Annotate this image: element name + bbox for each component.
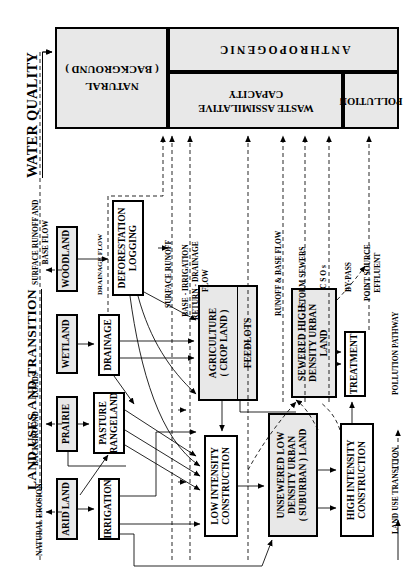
node-woodland-label: WOODLAND (61, 230, 72, 288)
node-feedlots-label: FEEDLOTS (243, 318, 254, 369)
node-deforestation-logging[interactable]: DEFORESTATION LOGGING (112, 200, 144, 296)
label-srbf-line2: BASE FLOW (41, 200, 51, 285)
heading-water-quality: WATER QUALITY (24, 52, 43, 178)
wq-waste-line1: WASTE ASSIMILATIVE (198, 101, 314, 115)
node-sewered-line3: LAND (320, 330, 330, 357)
node-pasture-rangeland[interactable]: PASTURE RANGELAND (93, 392, 125, 454)
node-pasture-line1: PASTURE (98, 401, 108, 445)
label-background: BACKGROUND (31, 411, 40, 466)
node-high-intensity-label: HIGH INTENSITY CONSTRUCTION (346, 440, 368, 521)
legend-land-use-transition-label: LAND USE TRANSITION (392, 447, 401, 534)
node-irrigation[interactable]: IRRIGATION (98, 478, 120, 540)
label-base-irrigation-return-drainage-flow: BASE - IRRIGATION RETURN - DRAINAGE FLOW (181, 241, 211, 320)
node-unsewered-line2: DENSITY URBAN (287, 436, 297, 514)
label-loads: LOADS (31, 372, 40, 398)
node-irrigation-label: IRRIGATION (103, 480, 114, 539)
node-unsewered-line1: UNSEWERED LOW (276, 432, 286, 519)
label-birdf-line2: RETURN - DRAINAGE (191, 241, 201, 320)
node-prairie-label: PRAIRIE (61, 404, 72, 444)
label-surface-runoff-and-base-flow: SURFACE RUNOFF AND BASE FLOW (31, 200, 51, 285)
wq-natural-line2: ( BACKGROUND ) (65, 61, 159, 78)
label-background-loads: BACKGROUND LOADS (32, 372, 41, 466)
label-birdf-line3: FLOW (201, 241, 211, 320)
label-drainage-flow: DRAINAGE FLOW (96, 234, 104, 295)
node-treatment[interactable]: TREATMENT (344, 331, 366, 397)
label-by-pass: BY-PASS (345, 262, 354, 292)
node-wetland[interactable]: WETLAND (56, 314, 78, 374)
label-point-source-effluent: POINT SOURCE EFFLUENT (363, 244, 383, 301)
node-deforestation-line1: DEFORESTATION (117, 208, 127, 289)
node-high-intensity-construction[interactable]: HIGH INTENSITY CONSTRUCTION (340, 423, 374, 537)
node-woodland[interactable]: WOODLAND (56, 226, 78, 292)
node-drainage-label: DRAINAGE (103, 319, 114, 371)
node-sewered-line1: SEWERED HIGH (297, 305, 307, 381)
label-csos: C S O s (320, 265, 329, 289)
label-surface-runoff: SURFACE RUNOFF (165, 240, 174, 308)
node-pasture-rangeland-label: PASTURE RANGELAND (98, 392, 120, 453)
water-quality-waste-capacity-cell: WASTE ASSIMILATIVE CAPACITY (168, 72, 343, 129)
node-high-intensity-line1: HIGH INTENSITY (346, 440, 356, 521)
wq-natural-line1: NATURAL (65, 78, 159, 95)
node-unsewered-low-density-urban-suburban-land[interactable]: UNSEWERED LOW DENSITY URBAN ( SUBURBAN )… (268, 413, 318, 537)
label-runoff-and-base-flow: RUNOFF & BASE FLOW (275, 231, 284, 316)
node-low-intensity-construction[interactable]: LOW INTENSITY CONSTRUCTION (204, 435, 238, 537)
figure-canvas: WATER QUALITY LAND USES AND TRANSITION N… (0, 0, 410, 574)
node-drainage[interactable]: DRAINAGE (98, 314, 120, 376)
water-quality-anthropogenic-cell: ANTHROPOGENIC (168, 27, 399, 72)
node-low-intensity-label: LOW INTENSITY CONSTRUCTION (210, 447, 232, 525)
node-low-intensity-line2: CONSTRUCTION (221, 447, 231, 525)
wq-pollution-label: POLLUTION (339, 95, 402, 106)
legend-pollution-pathway-label: POLLUTION PATHWAY (392, 312, 401, 395)
label-effluent: EFFLUENT (373, 244, 383, 301)
wq-anthropogenic-label: ANTHROPOGENIC (217, 44, 350, 56)
node-unsewered-line3: ( SUBURBAN ) LAND (299, 429, 309, 522)
node-pasture-line2: RANGELAND (109, 392, 119, 453)
node-unsewered-label: UNSEWERED LOW DENSITY URBAN ( SUBURBAN )… (276, 429, 310, 522)
node-deforestation-logging-label: DEFORESTATION LOGGING (117, 208, 139, 289)
label-point-source: POINT SOURCE (363, 244, 373, 301)
water-quality-natural-cell: NATURAL ( BACKGROUND ) (55, 27, 168, 129)
label-storm-sewers: STORM SEWERS (299, 246, 308, 307)
label-birdf-line1: BASE - IRRIGATION (181, 241, 191, 320)
node-treatment-label: TREATMENT (349, 334, 360, 395)
node-arid-land-label: ARID LAND (61, 482, 72, 536)
node-high-intensity-line2: CONSTRUCTION (357, 441, 367, 519)
node-low-intensity-line1: LOW INTENSITY (210, 447, 220, 525)
water-quality-pollution-cell: POLLUTION (343, 72, 399, 129)
label-natural-erosion: NATURAL EROSION (36, 483, 45, 556)
node-prairie[interactable]: PRAIRIE (56, 396, 78, 452)
node-sewered-line2: DENSITY URBAN (308, 304, 318, 382)
node-arid-land[interactable]: ARID LAND (56, 478, 78, 540)
wq-waste-line2: CAPACITY (198, 86, 314, 100)
node-agriculture-line2: ( CROP LAND ) (219, 310, 229, 377)
node-sewered-label: SEWERED HIGH DENSITY URBAN LAND (297, 304, 331, 382)
label-srbf-line1: SURFACE RUNOFF AND (31, 200, 41, 285)
node-wetland-label: WETLAND (61, 319, 72, 368)
node-deforestation-line2: LOGGING (128, 225, 138, 271)
